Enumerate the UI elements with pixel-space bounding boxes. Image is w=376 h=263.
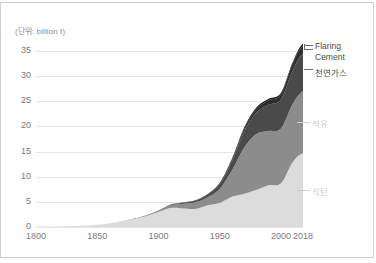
callout-leader-cement: [304, 49, 313, 50]
y-axis-tick-label: 25: [5, 95, 31, 105]
x-axis-tick-label: 2000: [271, 231, 291, 241]
y-axis-tick-label: 10: [5, 171, 31, 181]
x-axis-tick-label: 1950: [210, 231, 230, 241]
callout-leader-gas: [304, 69, 313, 70]
plot-area: [36, 41, 303, 227]
x-axis-tick-label: 2018: [293, 231, 313, 241]
callout-label-cement: Cement: [315, 52, 345, 62]
callout-label-oil: 석유: [312, 117, 328, 129]
callout-label-flaring: Flaring: [315, 41, 341, 51]
stacked-area-svg: [36, 41, 303, 227]
gridline: [36, 227, 303, 228]
y-axis-tick-label: 5: [5, 196, 31, 206]
x-axis-tick-label: 1800: [26, 231, 46, 241]
callout-leader-bracket-cement: [304, 44, 305, 50]
y-axis-tick-label: 15: [5, 146, 31, 156]
callout-leader-coal: [297, 190, 310, 191]
y-axis-tick-label: 35: [5, 45, 31, 55]
callout-label-coal: 석탄: [312, 185, 328, 197]
callout-leader-oil: [297, 122, 310, 123]
y-axis-tick-label: 20: [5, 120, 31, 130]
chart-card: (단위: billion t) 05101520253035 180018501…: [0, 2, 374, 258]
y-axis-tick-label: 0: [5, 221, 31, 231]
x-axis-ticks: 180018501900195020002018: [36, 231, 303, 245]
callout-leader-flaring: [304, 45, 313, 46]
callout-label-gas: 천연가스: [315, 66, 347, 78]
x-axis-tick-label: 1850: [87, 231, 107, 241]
unit-label: (단위: billion t): [15, 25, 65, 36]
x-axis-tick-label: 1900: [148, 231, 168, 241]
y-axis-tick-label: 30: [5, 70, 31, 80]
